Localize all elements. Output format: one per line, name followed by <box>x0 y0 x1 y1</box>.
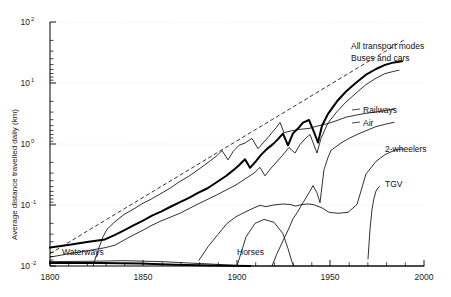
label-tgv: TGV <box>385 179 403 189</box>
series-two-wheelers <box>199 151 394 261</box>
y-tick-1em1: 10 <box>21 200 31 210</box>
y-tick-1e0: 10 <box>21 139 31 149</box>
y-minor-ticks <box>50 40 54 263</box>
y-tick-1em2: 10 <box>21 261 31 271</box>
x-tick-1950: 1950 <box>321 272 340 282</box>
x-tick-1850: 1850 <box>134 272 153 282</box>
label-horses: Horses <box>237 247 264 257</box>
x-tick-1900: 1900 <box>228 272 247 282</box>
series-railways <box>93 109 394 266</box>
series-buses-and-cars <box>50 70 399 257</box>
series-annotations: All transport modes Buses and cars Railw… <box>62 41 427 257</box>
chart-figure: Average distance travelled daily (km) <box>0 0 451 297</box>
y-tick-1e1: 10 <box>21 78 31 88</box>
series-horses <box>237 219 294 266</box>
y-tick-1e2-exp: 2 <box>31 16 34 22</box>
x-tick-labels: 1800 1850 1900 1950 2000 <box>41 272 434 282</box>
series-trend-line <box>50 39 405 253</box>
x-tick-1800: 1800 <box>41 272 60 282</box>
series-all-transport-modes <box>50 61 402 247</box>
y-tick-1em1-exp: -1 <box>31 199 36 205</box>
label-railways: Railways <box>363 105 397 115</box>
y-tick-labels: 10 2 10 1 10 0 10 -1 10 -2 <box>21 16 37 271</box>
x-tick-2000: 2000 <box>415 272 434 282</box>
series-curves <box>50 39 424 266</box>
y-tick-1em2-exp: -2 <box>31 260 36 266</box>
label-air: Air <box>363 118 374 128</box>
y-tick-1e0-exp: 0 <box>31 138 34 144</box>
label-buses-and-cars: Buses and cars <box>351 53 410 63</box>
label-2-wheelers: 2-wheelers <box>385 144 427 154</box>
transport-distance-log-chart: Average distance travelled daily (km) <box>0 0 451 297</box>
y-tick-1e1-exp: 1 <box>31 77 34 83</box>
label-waterways: Waterways <box>62 247 104 257</box>
y-axis-title: Average distance travelled daily (km) <box>10 109 19 240</box>
series-tgv <box>368 188 378 259</box>
label-all-transport-modes: All transport modes <box>351 41 424 51</box>
y-tick-1e2: 10 <box>21 17 31 27</box>
